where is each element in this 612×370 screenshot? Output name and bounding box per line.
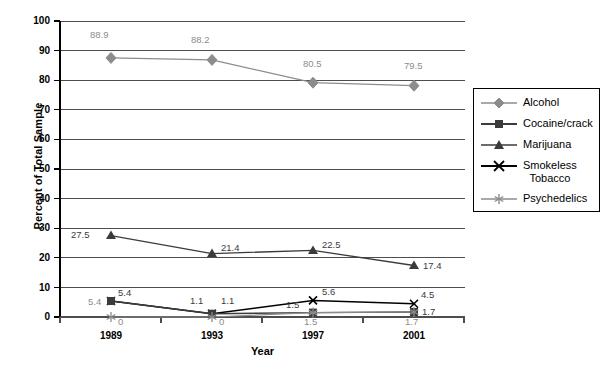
data-label-cocaine-2001: 1.7 [422, 307, 435, 317]
data-label-cocaine-1993: 1.1 [221, 296, 234, 306]
series-alcohol [106, 52, 419, 91]
legend-item-cocaine-crack[interactable]: Cocaine/crack [479, 117, 593, 133]
x-axis-title: Year [60, 345, 465, 357]
legend-label-smokeless-tobacco: Smokeless Tobacco [519, 159, 577, 185]
y-tick-label-0: 0 [16, 312, 50, 322]
data-label-cocaine-1997: 1.5 [286, 300, 299, 310]
x-tick-label-1989: 1989 [76, 331, 146, 341]
y-axis-title: Percent of Total Sample [32, 56, 44, 276]
line-chart: 100 90 80 70 60 50 40 30 20 10 0 1989 19… [0, 0, 612, 370]
legend-marker-triangle-icon [479, 138, 519, 152]
series-marijuana [106, 231, 419, 269]
legend-item-smokeless-tobacco[interactable]: Smokeless Tobacco [479, 159, 577, 189]
data-label-marijuana-1989: 27.5 [71, 230, 90, 240]
legend-label-marijuana: Marijuana [519, 138, 571, 151]
legend-marker-square-icon [479, 117, 519, 131]
data-label-smokeless-2001: 4.5 [421, 290, 434, 300]
data-label-alcohol-1989: 88.9 [90, 30, 109, 40]
legend-label-cocaine-crack: Cocaine/crack [519, 117, 593, 130]
legend-marker-asterisk-icon [479, 192, 519, 206]
data-label-smokeless-1997: 5.6 [322, 287, 335, 297]
y-tick-marks [54, 21, 60, 317]
data-label-cocaine-1989: 5.4 [118, 288, 131, 298]
data-label-alcohol-1993: 88.2 [191, 35, 210, 45]
legend-label-alcohol: Alcohol [519, 96, 559, 109]
legend-item-psychedelics[interactable]: Psychedelics [479, 192, 587, 208]
data-label-psychedelics-1989: 0 [118, 317, 123, 327]
data-label-marijuana-2001: 17.4 [423, 261, 442, 271]
data-label-alcohol-2001: 79.5 [404, 61, 423, 71]
data-label-marijuana-1993: 21.4 [221, 243, 240, 253]
x-tick-label-1993: 1993 [177, 331, 247, 341]
legend-label-psychedelics: Psychedelics [519, 192, 587, 205]
legend-marker-x-icon [479, 159, 519, 173]
data-label-alcohol-1997: 80.5 [303, 59, 322, 69]
data-label-smokeless-1989: 5.4 [88, 297, 101, 307]
data-label-psychedelics-1993: 0 [219, 317, 224, 327]
legend-marker-diamond-icon [479, 96, 519, 110]
legend-item-alcohol[interactable]: Alcohol [479, 96, 559, 112]
y-tick-label-100: 100 [16, 16, 50, 26]
data-label-marijuana-1997: 22.5 [322, 240, 341, 250]
data-label-smokeless-1993: 1.1 [190, 296, 203, 306]
y-tick-label-10: 10 [16, 283, 50, 293]
chart-legend: Alcohol Cocaine/crack Marijuana [473, 88, 600, 212]
data-label-psychedelics-1997: 1.5 [304, 317, 317, 327]
data-label-psychedelics-2001: 1.7 [405, 317, 418, 327]
x-tick-label-1997: 1997 [278, 331, 348, 341]
x-tick-label-2001: 2001 [379, 331, 449, 341]
y-tick-label-90: 90 [16, 46, 50, 56]
legend-item-marijuana[interactable]: Marijuana [479, 138, 571, 154]
